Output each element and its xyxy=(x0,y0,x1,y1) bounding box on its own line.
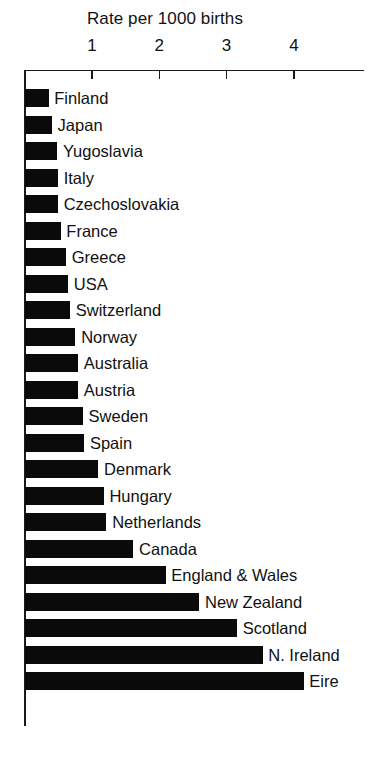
bar-row: Australia xyxy=(0,354,378,381)
bar xyxy=(25,275,68,293)
bar-row: Scotland xyxy=(0,619,378,646)
bar-label: N. Ireland xyxy=(268,644,340,666)
bar xyxy=(25,116,52,134)
bar xyxy=(25,89,49,107)
bar-row: Sweden xyxy=(0,407,378,434)
bar xyxy=(25,540,133,558)
bar-label: Japan xyxy=(58,114,103,136)
bar-row: Norway xyxy=(0,328,378,355)
bar xyxy=(25,672,304,690)
bar xyxy=(25,222,61,240)
bar-label: Netherlands xyxy=(112,511,201,533)
bar-row: Italy xyxy=(0,169,378,196)
bar xyxy=(25,593,199,611)
bar xyxy=(25,195,58,213)
bar xyxy=(25,487,104,505)
bar-chart: Rate per 1000 births 1234 FinlandJapanYu… xyxy=(0,0,378,762)
bar-label: Canada xyxy=(139,538,197,560)
bar-row: England & Wales xyxy=(0,566,378,593)
bar-row: Austria xyxy=(0,381,378,408)
bar-row: Yugoslavia xyxy=(0,142,378,169)
bar-label: Spain xyxy=(90,432,132,454)
bar-label: Denmark xyxy=(104,458,171,480)
bar xyxy=(25,354,78,372)
bar xyxy=(25,328,75,346)
bar xyxy=(25,248,66,266)
bar-label: Switzerland xyxy=(76,299,161,321)
x-tick-mark xyxy=(226,71,227,79)
bar xyxy=(25,301,70,319)
x-tick-mark xyxy=(159,71,160,79)
bar-row: Eire xyxy=(0,672,378,699)
bar-row: Netherlands xyxy=(0,513,378,540)
plot-area: FinlandJapanYugoslaviaItalyCzechoslovaki… xyxy=(0,0,378,762)
bar xyxy=(25,646,263,664)
bar-label: Sweden xyxy=(89,405,149,427)
bar-row: Finland xyxy=(0,89,378,116)
bar-label: France xyxy=(66,220,117,242)
bar-row: N. Ireland xyxy=(0,646,378,673)
bar-row: New Zealand xyxy=(0,593,378,620)
bar-row: Czechoslovakia xyxy=(0,195,378,222)
bar xyxy=(25,460,98,478)
bar-row: Hungary xyxy=(0,487,378,514)
bar xyxy=(25,434,84,452)
bar-label: Yugoslavia xyxy=(63,140,143,162)
x-tick-mark xyxy=(91,71,92,79)
bar xyxy=(25,619,237,637)
bar-label: Italy xyxy=(64,167,94,189)
bar-label: Norway xyxy=(81,326,137,348)
bar xyxy=(25,566,166,584)
bar-row: Switzerland xyxy=(0,301,378,328)
bar-row: Denmark xyxy=(0,460,378,487)
bar-label: USA xyxy=(74,273,108,295)
bar-label: New Zealand xyxy=(205,591,302,613)
bar-label: Austria xyxy=(84,379,135,401)
bar xyxy=(25,381,78,399)
bar xyxy=(25,169,58,187)
bar-label: Czechoslovakia xyxy=(64,193,180,215)
bar-label: England & Wales xyxy=(171,564,297,586)
bar-row: Spain xyxy=(0,434,378,461)
bar-label: Hungary xyxy=(109,485,171,507)
bar-label: Greece xyxy=(72,246,126,268)
bar-label: Finland xyxy=(54,87,108,109)
bar-row: Canada xyxy=(0,540,378,567)
bar-row: USA xyxy=(0,275,378,302)
bar-row: Japan xyxy=(0,116,378,143)
bar-label: Eire xyxy=(309,670,338,692)
bar-label: Australia xyxy=(84,352,148,374)
bar-row: Greece xyxy=(0,248,378,275)
bar-label: Scotland xyxy=(243,617,307,639)
bar xyxy=(25,407,83,425)
x-tick-mark xyxy=(293,71,294,79)
bar-row: France xyxy=(0,222,378,249)
bar xyxy=(25,513,106,531)
bar xyxy=(25,142,57,160)
